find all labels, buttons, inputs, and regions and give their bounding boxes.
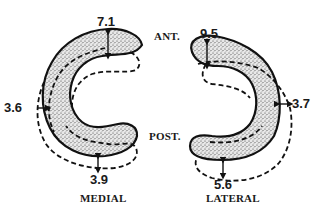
medial-side-value: 3.6	[4, 100, 22, 115]
medial-anterior-value: 7.1	[97, 14, 115, 29]
medial-meniscus	[38, 29, 143, 168]
posterior-label: POST.	[149, 130, 181, 142]
lateral-anterior-value: 9.5	[200, 26, 218, 41]
medial-meniscus-outline	[43, 29, 142, 156]
lateral-posterior-value: 5.6	[214, 177, 232, 192]
lateral-label: LATERAL	[206, 192, 260, 204]
meniscus-diagram: 7.1 3.6 3.9 9.5 3.7 5.6 ANT. POST. MEDIA…	[0, 0, 318, 209]
lateral-side-value: 3.7	[292, 96, 310, 111]
medial-label: MEDIAL	[80, 192, 126, 204]
medial-posterior-value: 3.9	[90, 172, 108, 187]
lateral-meniscus	[190, 36, 292, 181]
anterior-label: ANT.	[154, 30, 180, 42]
